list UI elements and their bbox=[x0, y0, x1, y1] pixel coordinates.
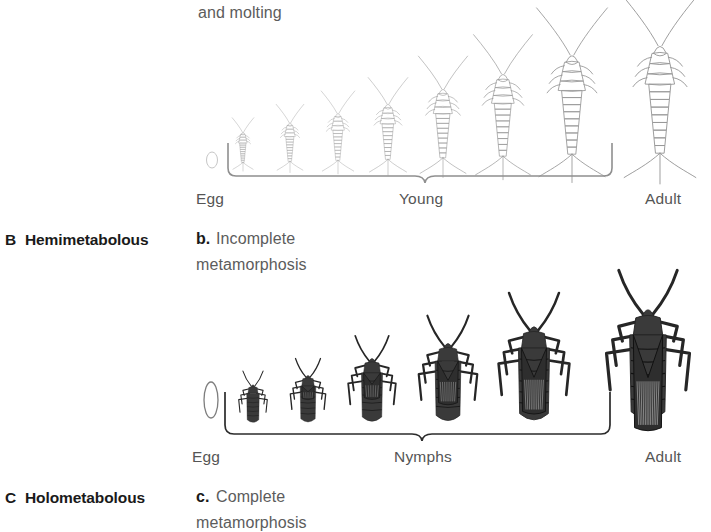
stage-label-adult-row-b: Adult bbox=[645, 448, 681, 466]
row-b-illustration bbox=[0, 0, 711, 532]
row-a-illustration bbox=[0, 0, 711, 532]
caption-letter-b: b. bbox=[196, 230, 210, 248]
stage-label-nymphs-row-b: Nymphs bbox=[394, 448, 452, 466]
true-bug-figure bbox=[239, 371, 268, 422]
egg-oval-row-b bbox=[204, 382, 218, 418]
true-bug-figure bbox=[499, 293, 570, 420]
silverfish-figure bbox=[537, 8, 608, 183]
true-bug-figure bbox=[290, 358, 325, 421]
egg-oval-row-a bbox=[207, 152, 218, 168]
stage-label-adult-row-a: Adult bbox=[645, 190, 681, 208]
silverfish-figure bbox=[276, 104, 304, 172]
true-bug-figure bbox=[419, 316, 477, 421]
true-bug-figure bbox=[607, 270, 690, 430]
silverfish-figure bbox=[622, 0, 699, 184]
silverfish-figure bbox=[368, 78, 408, 176]
silverfish-figure bbox=[418, 56, 467, 177]
panel-letter-c: C bbox=[5, 489, 16, 507]
panel-name-holometabolous: Holometabolous bbox=[25, 489, 145, 507]
stage-label-egg-row-b: Egg bbox=[192, 448, 220, 466]
caption-line1-b: Incomplete bbox=[216, 230, 295, 248]
silverfish-figure bbox=[474, 35, 533, 180]
caption-letter-c: c. bbox=[196, 488, 209, 506]
insect-metamorphosis-figure: and molting Egg Young Adult B Hemimetabo… bbox=[0, 0, 711, 532]
stage-label-young-row-a: Young bbox=[399, 190, 443, 208]
caption-line2-c: metamorphosis bbox=[196, 514, 307, 532]
brace-nymphs bbox=[225, 392, 610, 441]
panel-letter-b: B bbox=[5, 231, 16, 249]
brace-young bbox=[228, 143, 612, 183]
panel-name-hemimetabolous: Hemimetabolous bbox=[25, 231, 149, 249]
silverfish-figure bbox=[232, 118, 254, 171]
silverfish-figure bbox=[321, 91, 355, 174]
stage-label-egg-row-a: Egg bbox=[196, 190, 224, 208]
true-bug-figure bbox=[348, 336, 396, 421]
caption-line2-b: metamorphosis bbox=[196, 256, 307, 274]
top-continuation-text: and molting bbox=[198, 4, 282, 22]
caption-line1-c: Complete bbox=[216, 488, 285, 506]
